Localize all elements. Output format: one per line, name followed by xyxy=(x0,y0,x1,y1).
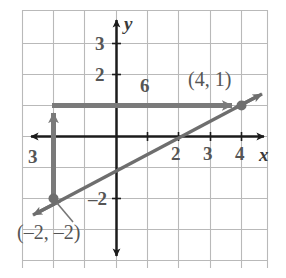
x-tick-label-4: 4 xyxy=(235,144,245,163)
x-tick-label-2: 2 xyxy=(171,144,181,163)
point-label-4-1: (4, 1) xyxy=(188,69,231,89)
run-label: 6 xyxy=(140,76,150,95)
y-tick-label-2: 2 xyxy=(95,65,105,84)
point-label-minus2-minus2: (–2, –2) xyxy=(17,222,80,242)
point-marker-4-1 xyxy=(237,101,247,111)
y-tick-label-3: 3 xyxy=(95,34,105,53)
x-axis-name: x xyxy=(259,145,269,164)
rise-label: 3 xyxy=(28,147,38,166)
x-tick-label-3: 3 xyxy=(203,144,213,163)
y-axis-name: y xyxy=(124,14,132,33)
point-marker-minus2-minus2 xyxy=(49,194,59,204)
graph-figure: 3 2 –2 2 3 4 x y 3 6 (4, 1) (–2, –2) xyxy=(0,0,286,278)
y-tick-label-negative-2: –2 xyxy=(88,189,107,208)
